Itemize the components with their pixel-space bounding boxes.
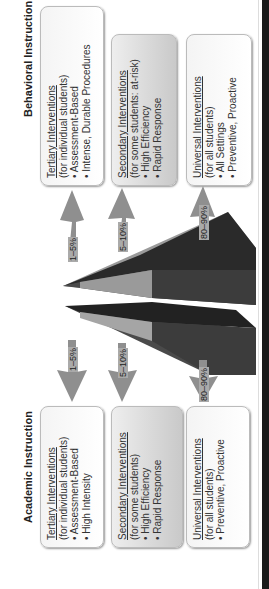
behavioral-universal-pct: 80–90% (199, 205, 209, 240)
behavioral-secondary-pct: 5–10% (118, 222, 128, 252)
academic-tertiary-pct: 1–5% (68, 347, 78, 372)
academic-secondary-pct: 5–10% (118, 348, 128, 378)
arrows (0, 0, 269, 589)
academic-universal-pct: 80–90% (199, 367, 209, 402)
behavioral-tertiary-pct: 1–5% (68, 237, 78, 262)
